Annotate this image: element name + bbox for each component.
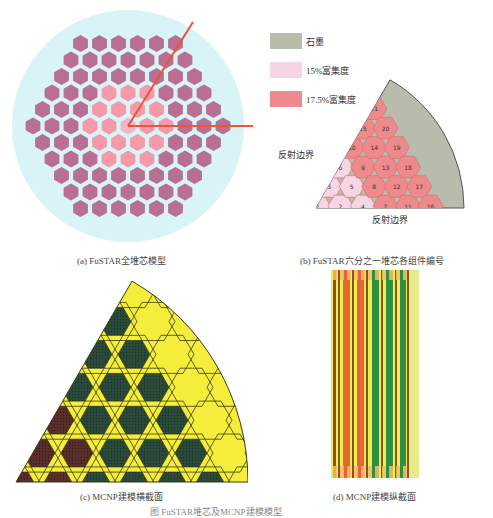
assembly-number: 20 — [382, 125, 390, 132]
plenum-segment — [396, 270, 400, 280]
plenum-segment — [403, 466, 407, 478]
plenum-segment — [361, 270, 365, 280]
plenum-segment — [333, 466, 337, 478]
fuel-channel — [333, 270, 336, 478]
assembly-number: 13 — [382, 164, 390, 171]
caption-c: (c) MCNP建模横截面 — [80, 490, 163, 503]
cell-hex — [245, 302, 248, 340]
full-core-diagram — [8, 8, 253, 248]
reflective-boundary-label-left: 反射边界 — [278, 148, 314, 161]
cell-hex — [226, 335, 248, 373]
plenum-segment — [389, 270, 393, 280]
fuel-channel — [395, 270, 397, 478]
plenum-segment — [382, 466, 386, 478]
fuel-channel — [343, 270, 350, 478]
panel-d-mcnp-longitudinal-section — [331, 270, 421, 480]
fuel-channel — [372, 270, 379, 478]
plenum-segment — [347, 466, 351, 478]
fuel-channel — [381, 270, 383, 478]
plenum-segment — [333, 270, 337, 280]
assembly-number: 8 — [372, 183, 376, 190]
fuel-channel — [366, 270, 368, 478]
plenum-segment — [375, 270, 379, 280]
sixth-core-diagram: 136101521259142048131971218111716 — [262, 20, 493, 235]
plenum-segment — [354, 466, 358, 478]
caption-b: (b) FuSTAR六分之一堆芯各组件编号 — [300, 254, 444, 267]
plenum-segment — [375, 466, 379, 478]
assembly-number: 19 — [393, 144, 401, 151]
cell-hex — [207, 302, 248, 340]
figure-caption: 图 FuSTAR堆芯及MCNP建模模型 — [150, 505, 282, 518]
assembly-number: 14 — [370, 144, 378, 151]
plenum-segment — [354, 270, 358, 280]
fuel-channel — [352, 270, 354, 478]
fuel-channel — [400, 270, 406, 478]
plenum-segment — [368, 270, 372, 280]
assembly-number: 12 — [393, 183, 401, 190]
cell-hex — [188, 270, 232, 308]
assembly-number: 18 — [404, 164, 412, 171]
reflective-boundary-label-bottom: 反射边界 — [372, 213, 408, 226]
plenum-segment — [347, 270, 351, 280]
mcnp-cross-section-diagram — [8, 270, 248, 485]
plenum-segment — [368, 466, 372, 478]
cell-hex — [245, 368, 248, 406]
caption-a: (a) FuSTAR全堆芯模型 — [77, 254, 166, 267]
assembly-number: 17 — [415, 183, 423, 190]
panel-b-sixth-core: 石墨 15%富集度 17.5%富集度 136101521259142048131… — [262, 20, 493, 235]
assembly-number: 9 — [361, 164, 365, 171]
cell-hex — [207, 270, 248, 275]
fuel-channel — [338, 270, 340, 478]
caption-d: (d) MCNP建模纵截面 — [333, 490, 416, 503]
assembly-number: 5 — [350, 183, 354, 190]
plenum-segment — [403, 270, 407, 280]
plenum-segment — [361, 466, 365, 478]
plenum-segment — [340, 270, 344, 280]
plenum-segment — [340, 466, 344, 478]
plenum-segment — [382, 270, 386, 280]
fuel-channel — [386, 270, 393, 478]
cell-hex — [226, 270, 248, 308]
plenum-segment — [396, 466, 400, 478]
plenum-segment — [389, 466, 393, 478]
fuel-channel — [407, 270, 409, 478]
cell-hex — [131, 270, 175, 275]
fuel-channel — [357, 270, 364, 478]
panel-a-full-core-model — [8, 8, 253, 248]
mcnp-longitudinal-section-diagram — [331, 270, 421, 480]
reflector-column — [409, 270, 419, 478]
cell-hex — [169, 270, 213, 275]
panel-c-mcnp-cross-section — [8, 270, 248, 485]
cell-hex — [245, 270, 248, 275]
